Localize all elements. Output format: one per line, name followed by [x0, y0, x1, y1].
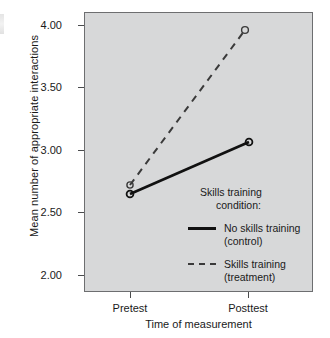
legend: Skills training condition: No skills tra…	[186, 186, 310, 283]
figure: Mean number of appropriate interactions …	[0, 0, 330, 338]
legend-title-line1: Skills training	[200, 186, 262, 198]
legend-entry-control: No skills training (control)	[186, 222, 310, 247]
legend-title: Skills training condition:	[186, 186, 310, 211]
legend-swatch-solid-icon	[188, 227, 216, 230]
legend-label-treatment-line2: (treatment)	[224, 271, 310, 284]
legend-label-treatment-line1: Skills training	[224, 258, 286, 270]
legend-label-control-line1: No skills training	[224, 222, 300, 234]
legend-title-line2: condition:	[200, 199, 310, 212]
series-layer	[0, 0, 330, 338]
series-line-treatment	[130, 30, 245, 185]
legend-swatch-dashed-icon	[188, 263, 216, 265]
legend-label-control-line2: (control)	[224, 235, 310, 248]
legend-entry-treatment: Skills training (treatment)	[186, 258, 310, 283]
